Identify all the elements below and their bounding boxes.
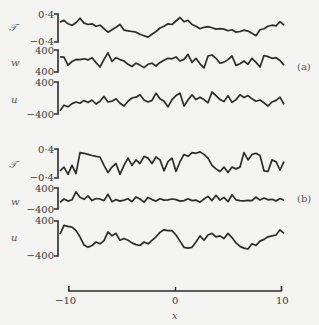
ytick-a-T-top: 0·4 bbox=[2, 10, 54, 20]
trace-layer bbox=[60, 18, 284, 250]
scale-bracket-a-u bbox=[54, 82, 58, 114]
xtick-label-minus10: −10 bbox=[55, 296, 76, 306]
ytick-a-w-bottom: 400 bbox=[2, 67, 54, 77]
ytick-a-u-bottom: −400 bbox=[2, 110, 54, 120]
ylabel-a-T: 𝒯 bbox=[9, 22, 17, 34]
ytick-a-u-top: 400 bbox=[2, 78, 54, 88]
scale-bracket-b-u bbox=[54, 221, 58, 256]
panel-label-a: (a) bbox=[297, 61, 311, 72]
trace-a-T bbox=[60, 18, 284, 38]
ylabel-b-T: 𝒯 bbox=[9, 159, 17, 171]
ylabel-b-u: u bbox=[11, 232, 17, 243]
trace-b-u bbox=[60, 225, 284, 249]
trace-b-T bbox=[60, 152, 284, 175]
ylabel-a-u: u bbox=[11, 94, 17, 105]
scale-bracket-a-T bbox=[54, 14, 58, 42]
y-scale-brackets bbox=[54, 14, 58, 256]
ytick-a-w-top: 400 bbox=[2, 46, 54, 56]
ytick-b-T-top: 0·4 bbox=[2, 145, 54, 155]
xtick-label-10: 10 bbox=[276, 296, 289, 306]
ytick-b-u-top: 400 bbox=[2, 216, 54, 226]
xtick-label-0: 0 bbox=[172, 296, 178, 306]
ytick-b-T-bottom: −0·4 bbox=[2, 173, 54, 183]
ytick-b-u-bottom: −400 bbox=[2, 251, 54, 261]
trace-a-u bbox=[60, 92, 284, 111]
trace-a-w bbox=[60, 53, 284, 68]
scale-bracket-b-w bbox=[54, 188, 58, 209]
x-axis-label: x bbox=[172, 310, 178, 321]
scale-bracket-a-w bbox=[54, 50, 58, 72]
ytick-b-w-bottom: −400 bbox=[2, 205, 54, 215]
trace-b-w bbox=[60, 192, 284, 203]
scale-bracket-b-T bbox=[54, 149, 58, 178]
panel-label-b: (b) bbox=[297, 193, 311, 204]
x-axis bbox=[68, 286, 282, 291]
ytick-b-w-top: 400 bbox=[2, 184, 54, 194]
